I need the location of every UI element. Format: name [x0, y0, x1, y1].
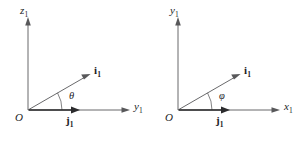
right-origin-label: O	[165, 112, 173, 123]
right-horizontal-axis-arrowhead	[272, 107, 281, 113]
right-j-vector-arrowhead	[221, 107, 230, 114]
left-j-vector-arrowhead	[71, 107, 80, 114]
right-horizontal-axis-subscript: 1	[289, 106, 293, 115]
right-i-vector-subscript: 1	[247, 70, 251, 79]
left-i-vector-label: i1	[94, 65, 101, 76]
left-vertical-axis-subscript: 1	[24, 10, 28, 19]
left-horizontal-axis-subscript: 1	[139, 106, 143, 115]
left-i-vector-line	[28, 77, 85, 110]
right-angle-arc	[208, 93, 213, 110]
left-angle-label: θ	[69, 91, 74, 102]
right-panel-graphics	[175, 17, 280, 113]
diagram-canvas	[0, 0, 301, 144]
left-vertical-axis-label: z1	[20, 5, 28, 16]
right-j-vector-subscript: 1	[220, 120, 224, 129]
right-horizontal-axis-label: x1	[284, 101, 293, 112]
left-j-vector-subscript: 1	[70, 120, 74, 129]
left-angle-arc	[58, 93, 63, 110]
right-angle-label: φ	[219, 91, 225, 102]
left-horizontal-axis-arrowhead	[122, 107, 131, 113]
right-i-vector-line	[178, 77, 235, 110]
left-i-vector-subscript: 1	[97, 70, 101, 79]
right-vertical-axis-label: y1	[170, 5, 179, 16]
right-vertical-axis-subscript: 1	[175, 10, 179, 19]
right-j-vector-label: j1	[216, 115, 223, 126]
left-origin-label: O	[15, 112, 23, 123]
vector-diagram-figure: z1 y1 O i1 j1 θ y1 x1 O i1 j1 φ	[0, 0, 301, 144]
left-panel-graphics	[25, 17, 130, 113]
right-i-vector-label: i1	[244, 65, 251, 76]
left-j-vector-label: j1	[66, 115, 73, 126]
left-horizontal-axis-label: y1	[134, 101, 143, 112]
